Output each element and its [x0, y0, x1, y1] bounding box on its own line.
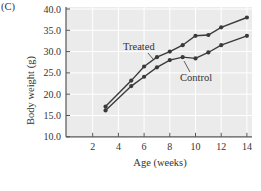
x-tick-label: 14	[242, 141, 252, 152]
x-tick-label: 2	[90, 141, 95, 152]
y-tick-label: 25.0	[44, 67, 62, 78]
x-tick-label: 12	[216, 141, 226, 152]
data-point	[219, 25, 223, 29]
x-tick-label: 6	[142, 141, 147, 152]
data-point	[206, 33, 210, 37]
data-point	[168, 50, 172, 54]
data-point	[181, 43, 185, 47]
data-point	[129, 78, 133, 82]
data-point	[168, 58, 172, 62]
data-point	[245, 34, 249, 38]
data-point	[219, 43, 223, 47]
data-point	[155, 55, 159, 59]
y-tick-label: 30.0	[44, 46, 62, 57]
line-chart: 10.015.020.025.030.035.040.0 2468101214 …	[0, 0, 261, 191]
annotation-treated: Treated	[123, 41, 155, 52]
x-tick-label: 4	[116, 141, 121, 152]
data-point	[193, 56, 197, 60]
data-point	[129, 84, 133, 88]
y-tick-label: 40.0	[44, 4, 62, 15]
data-point	[142, 64, 146, 68]
data-point	[245, 15, 249, 19]
annotation-control: Control	[180, 72, 212, 83]
y-tick-label: 35.0	[44, 25, 62, 36]
data-point	[193, 34, 197, 38]
data-point	[206, 50, 210, 54]
x-tick-label: 8	[167, 141, 172, 152]
data-point	[155, 65, 159, 69]
data-point	[181, 55, 185, 59]
y-tick-label: 10.0	[44, 131, 62, 142]
x-tick-label: 10	[191, 141, 201, 152]
data-point	[142, 75, 146, 79]
data-point	[103, 108, 107, 112]
y-tick-label: 15.0	[44, 110, 62, 121]
y-tick-label: 20.0	[44, 89, 62, 100]
